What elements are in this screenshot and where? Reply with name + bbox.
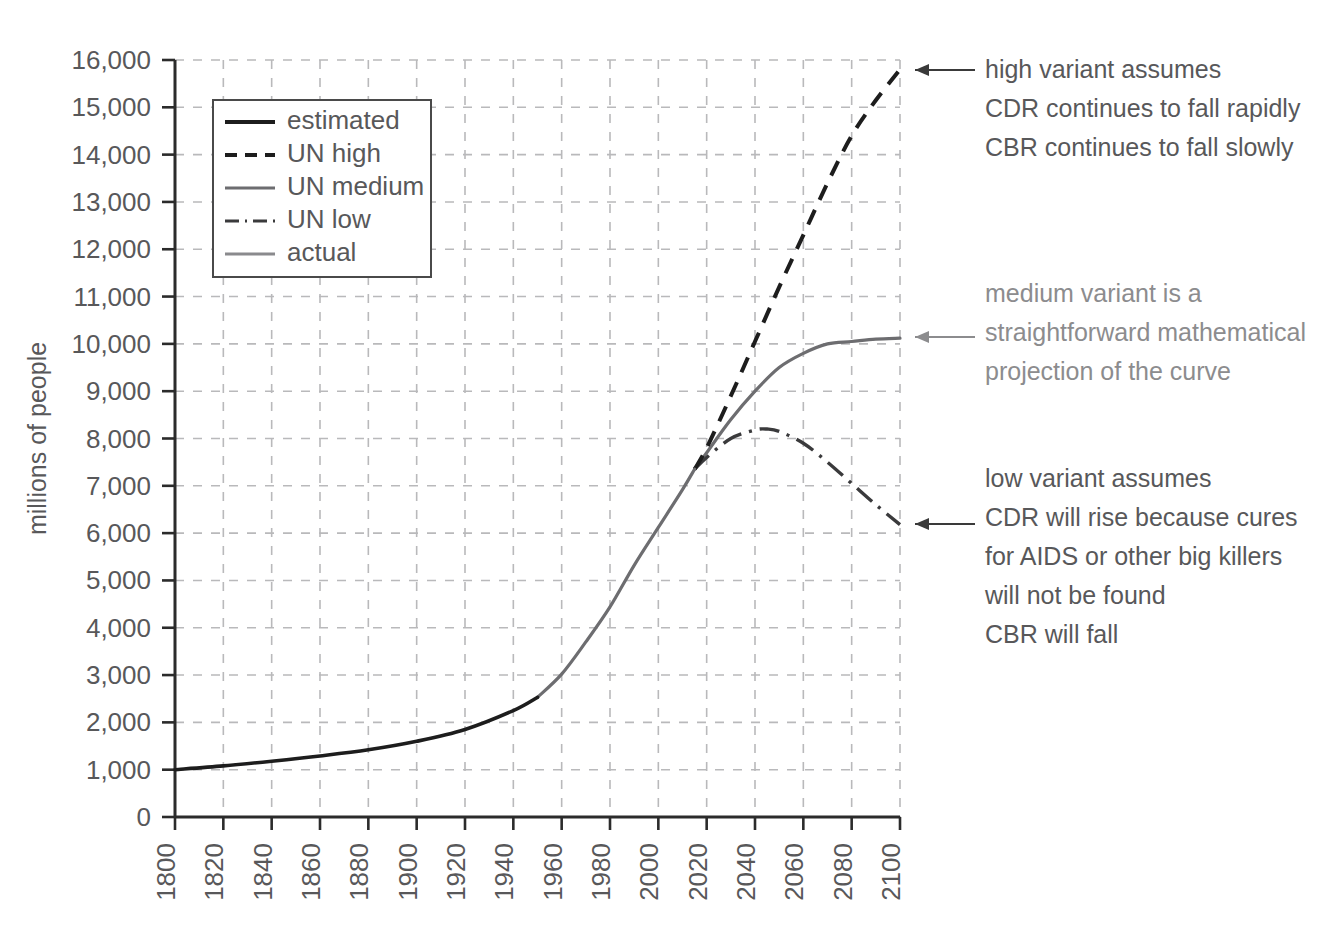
x-tick-label: 1880 bbox=[344, 843, 374, 901]
legend-label: estimated bbox=[287, 105, 400, 135]
annotation-line: CDR continues to fall rapidly bbox=[985, 94, 1301, 122]
x-tick-label: 1860 bbox=[296, 843, 326, 901]
x-tick-label: 2080 bbox=[828, 843, 858, 901]
y-axis-title: millions of people bbox=[23, 342, 51, 535]
population-projection-chart: 01,0002,0003,0004,0005,0006,0007,0008,00… bbox=[0, 0, 1337, 925]
y-tick-label: 9,000 bbox=[86, 376, 151, 406]
arrow-head-icon bbox=[915, 518, 929, 530]
y-tick-label: 16,000 bbox=[71, 45, 151, 75]
y-tick-label: 5,000 bbox=[86, 565, 151, 595]
y-tick-label: 12,000 bbox=[71, 234, 151, 264]
y-tick-label: 7,000 bbox=[86, 471, 151, 501]
annotation-line: straightforward mathematical bbox=[985, 318, 1306, 346]
x-tick-label: 1840 bbox=[248, 843, 278, 901]
y-tick-label: 0 bbox=[137, 802, 151, 832]
legend-label: UN low bbox=[287, 204, 371, 234]
chart-canvas: 01,0002,0003,0004,0005,0006,0007,0008,00… bbox=[0, 0, 1337, 925]
annotation-low-variant: low variant assumesCDR will rise because… bbox=[915, 464, 1298, 648]
y-tick-labels: 01,0002,0003,0004,0005,0006,0007,0008,00… bbox=[71, 45, 151, 832]
legend-label: UN high bbox=[287, 138, 381, 168]
y-tick-label: 11,000 bbox=[73, 282, 151, 312]
x-tick-label: 2100 bbox=[876, 843, 906, 901]
annotation-line: CDR will rise because cures bbox=[985, 503, 1298, 531]
series-line-estimated bbox=[175, 697, 538, 769]
x-tick-label: 1980 bbox=[586, 843, 616, 901]
x-tick-labels: 1800182018401860188019001920194019601980… bbox=[151, 843, 906, 901]
series-line-un-low bbox=[695, 429, 900, 525]
annotation-line: high variant assumes bbox=[985, 55, 1221, 83]
x-tick-label: 2020 bbox=[683, 843, 713, 901]
y-tick-label: 15,000 bbox=[71, 92, 151, 122]
arrow-head-icon bbox=[915, 331, 929, 343]
y-tick-label: 6,000 bbox=[86, 518, 151, 548]
annotations: high variant assumesCDR continues to fal… bbox=[915, 55, 1306, 648]
x-tick-label: 1940 bbox=[489, 843, 519, 901]
x-tick-label: 2060 bbox=[779, 843, 809, 901]
legend-label: UN medium bbox=[287, 171, 424, 201]
x-tick-label: 2040 bbox=[731, 843, 761, 901]
annotation-line: CBR will fall bbox=[985, 620, 1118, 648]
annotation-line: low variant assumes bbox=[985, 464, 1211, 492]
legend-label: actual bbox=[287, 237, 356, 267]
legend: estimatedUN highUN mediumUN lowactual bbox=[213, 100, 431, 277]
annotation-line: for AIDS or other big killers bbox=[985, 542, 1282, 570]
annotation-line: medium variant is a bbox=[985, 279, 1202, 307]
annotation-line: CBR continues to fall slowly bbox=[985, 133, 1294, 161]
x-tick-label: 1820 bbox=[199, 843, 229, 901]
y-tick-label: 4,000 bbox=[86, 613, 151, 643]
annotation-line: will not be found bbox=[984, 581, 1166, 609]
y-tick-label: 3,000 bbox=[86, 660, 151, 690]
x-tick-label: 1900 bbox=[393, 843, 423, 901]
x-tick-label: 1920 bbox=[441, 843, 471, 901]
y-tick-label: 10,000 bbox=[71, 329, 151, 359]
x-tick-label: 1960 bbox=[538, 843, 568, 901]
x-tick-label: 1800 bbox=[151, 843, 181, 901]
annotation-line: projection of the curve bbox=[985, 357, 1231, 385]
series-line-un-medium bbox=[695, 338, 900, 469]
x-tick-label: 2000 bbox=[634, 843, 664, 901]
y-tick-label: 13,000 bbox=[71, 187, 151, 217]
y-tick-label: 2,000 bbox=[86, 707, 151, 737]
arrow-head-icon bbox=[915, 64, 929, 76]
y-tick-label: 8,000 bbox=[86, 424, 151, 454]
series-line-un-high bbox=[695, 69, 900, 469]
y-tick-label: 14,000 bbox=[71, 140, 151, 170]
y-tick-label: 1,000 bbox=[86, 755, 151, 785]
annotation-high-variant: high variant assumesCDR continues to fal… bbox=[915, 55, 1301, 161]
annotation-medium-variant: medium variant is astraightforward mathe… bbox=[915, 279, 1306, 385]
